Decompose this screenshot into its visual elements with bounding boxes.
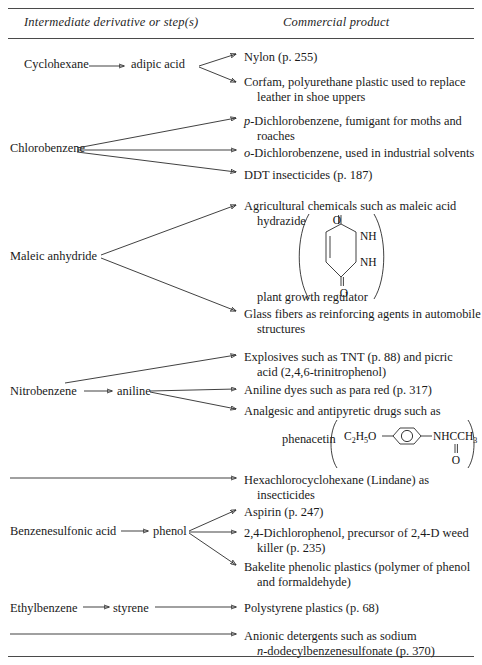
column-header-intermediate: Intermediate derivative or step(s) xyxy=(24,15,198,30)
column-header-product: Commercial product xyxy=(283,15,389,30)
atom-label-ethoxy: C2H5O xyxy=(344,430,376,445)
intermediate-ethylbenzene: Ethylbenzene xyxy=(10,601,77,616)
product-text-cont: insecticides xyxy=(244,488,482,503)
atom-label-acetamido: NHCCH3 xyxy=(433,430,477,445)
product-text-cont: acid (2,4,6-trinitrophenol) xyxy=(244,365,482,380)
benzene-ring xyxy=(393,428,421,444)
arrow-phenol-to-aspirin xyxy=(189,510,236,531)
product-text-plant-growth-regulator: plant growth regulator xyxy=(257,290,368,305)
product-text: DDT insecticides (p. 187) xyxy=(244,168,372,182)
product-text-cont: structures xyxy=(244,322,482,337)
arrow-aniline-to-analgesics xyxy=(150,392,236,409)
intermediate-benzenesulfonic-acid: Benzenesulfonic acid xyxy=(10,524,116,539)
product-corfam: Corfam, polyurethane plastic used to rep… xyxy=(244,75,482,105)
aromatic-circle xyxy=(401,430,412,441)
arrow-adipic-to-nylon xyxy=(199,54,236,66)
product-text-cont: and formaldehyde) xyxy=(244,575,482,590)
ring-bonds xyxy=(326,224,356,277)
arrow-maleic-to-glass-fibers xyxy=(101,258,236,311)
product-text: Analgesic and antipyretic drugs such as xyxy=(244,404,440,418)
product-text: Nylon (p. 255) xyxy=(244,50,317,64)
product-dichlorophenol: 2,4-Dichlorophenol, precursor of 2,4-D w… xyxy=(244,526,482,556)
product-text: Agricultural chemicals such as maleic ac… xyxy=(244,199,456,213)
product-lindane: Hexachlorocyclohexane (Lindane) as insec… xyxy=(244,473,482,503)
intermediate-adipic-acid: adipic acid xyxy=(131,57,185,72)
product-text: 2,4-Dichlorophenol, precursor of 2,4-D w… xyxy=(244,526,469,540)
product-text: Explosives such as TNT (p. 88) and picri… xyxy=(244,350,453,364)
product-text: Bakelite phenolic plastics (polymer of p… xyxy=(244,560,470,574)
atom-label-nh-lower: NH xyxy=(360,256,377,268)
atom-label-nh-upper: NH xyxy=(360,230,377,242)
arrow-adipic-to-corfam xyxy=(199,67,236,82)
product-p-dichlorobenzene: p-Dichlorobenzene, fumigant for moths an… xyxy=(244,114,482,144)
product-text-phenacetin: phenacetin xyxy=(282,432,336,447)
intermediate-phenol: phenol xyxy=(153,524,187,539)
product-text-cont: n-dodecylbenzenesulfonate (p. 370) xyxy=(244,644,482,659)
product-text: -Dichlorobenzene, fumigant for moths and xyxy=(250,114,462,128)
product-nylon: Nylon (p. 255) xyxy=(244,50,482,65)
product-text-cont: killer (p. 235) xyxy=(244,541,482,556)
paren-right xyxy=(468,420,474,468)
product-bakelite: Bakelite phenolic plastics (polymer of p… xyxy=(244,560,482,590)
product-text: Aspirin (p. 247) xyxy=(244,505,324,519)
product-text-cont: leather in shoe uppers xyxy=(244,90,482,105)
product-ddt: DDT insecticides (p. 187) xyxy=(244,168,482,183)
intermediate-maleic-anhydride: Maleic anhydride xyxy=(10,249,97,264)
intermediate-chlorobenzene: Chlorobenzene xyxy=(10,141,85,156)
table-top-rule xyxy=(8,8,474,9)
product-text: Glass fibers as reinforcing agents in au… xyxy=(244,307,481,321)
product-o-dichlorobenzene: o-Dichlorobenzene, used in industrial so… xyxy=(244,146,482,161)
chemical-products-table: Intermediate derivative or step(s) Comme… xyxy=(0,0,482,665)
arrow-chlorobenzene-to-ddt xyxy=(77,152,236,172)
product-analgesic-drugs: Analgesic and antipyretic drugs such as xyxy=(244,404,482,419)
product-text-tail: -dodecylbenzenesulfonate (p. 370) xyxy=(263,644,435,658)
arrow-maleic-to-hydrazide xyxy=(101,205,236,255)
arrow-phenol-to-bakelite xyxy=(189,533,236,565)
atom-label-o-carbonyl: O xyxy=(452,454,460,466)
product-text-cont: hydrazide xyxy=(244,214,482,229)
product-explosives-tnt: Explosives such as TNT (p. 88) and picri… xyxy=(244,350,482,380)
arrow-chlorobenzene-to-p-dcb xyxy=(77,118,236,148)
product-glass-fibers: Glass fibers as reinforcing agents in au… xyxy=(244,307,482,337)
product-text: -Dichlorobenzene, used in industrial sol… xyxy=(250,146,474,160)
product-polystyrene: Polystyrene plastics (p. 68) xyxy=(244,601,482,616)
intermediate-cyclohexane: Cyclohexane xyxy=(24,57,89,72)
phenacetin-structure: C2H5O NHCCH3 O xyxy=(331,420,477,468)
product-maleic-hydrazide: Agricultural chemicals such as maleic ac… xyxy=(244,199,482,229)
product-text: Polystyrene plastics (p. 68) xyxy=(244,601,379,615)
intermediate-aniline: aniline xyxy=(117,384,151,399)
intermediate-nitrobenzene: Nitrobenzene xyxy=(10,384,77,399)
arrow-nitrobenzene-to-explosives xyxy=(65,355,236,383)
intermediate-styrene: styrene xyxy=(113,601,149,616)
product-anionic-detergents: Anionic detergents such as sodium n-dode… xyxy=(244,629,482,659)
product-text: Hexachlorocyclohexane (Lindane) as xyxy=(244,473,429,487)
arrow-aniline-to-dyes xyxy=(150,389,236,391)
product-aniline-dyes: Aniline dyes such as para red (p. 317) xyxy=(244,383,482,398)
product-aspirin: Aspirin (p. 247) xyxy=(244,505,482,520)
product-text: Anionic detergents such as sodium xyxy=(244,629,417,643)
table-header-rule xyxy=(8,38,474,39)
product-text: Corfam, polyurethane plastic used to rep… xyxy=(244,75,466,89)
product-text: Aniline dyes such as para red (p. 317) xyxy=(244,383,432,397)
product-text-cont: roaches xyxy=(244,129,482,144)
